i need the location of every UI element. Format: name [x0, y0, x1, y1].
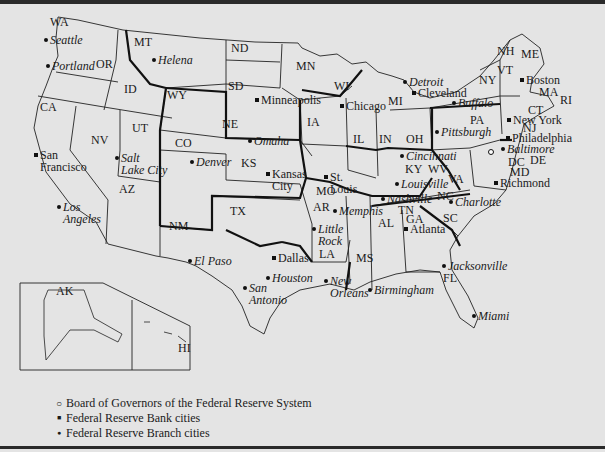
- city-label: Louisville: [400, 177, 449, 191]
- bank-city-marker: [324, 175, 328, 179]
- city-label: Omaha: [254, 134, 289, 148]
- state-label-ar: AR: [313, 200, 330, 214]
- city-label: Houston: [271, 271, 313, 285]
- state-label-il: IL: [353, 132, 364, 146]
- city-label: Chicago: [346, 99, 386, 113]
- bank-city-marker: [494, 181, 498, 185]
- branch-city-marker: [248, 139, 252, 143]
- state-label-nh: NH: [497, 44, 515, 58]
- city-label: Louis: [330, 182, 358, 196]
- state-label-or: OR: [96, 57, 113, 71]
- branch-city-marker: [395, 182, 399, 186]
- legend-label: Federal Reserve Branch cities: [66, 426, 210, 441]
- state-label-al: AL: [378, 216, 394, 230]
- board-of-governors-marker: [489, 150, 494, 155]
- state-label-fl: FL: [443, 271, 457, 285]
- state-label-ma: MA: [539, 85, 559, 99]
- legend-label: Federal Reserve Bank cities: [66, 411, 200, 426]
- state-label-tx: TX: [230, 204, 246, 218]
- state-label-ny: NY: [479, 73, 497, 87]
- city-label: Antonio: [248, 293, 287, 307]
- state-label-vt: VT: [497, 63, 514, 77]
- state-label-oh: OH: [406, 132, 424, 146]
- state-label-co: CO: [175, 136, 192, 150]
- branch-city-marker: [501, 147, 505, 151]
- city-label: Nashville: [386, 192, 433, 206]
- branch-city-marker: [312, 227, 316, 231]
- state-label-sd: SD: [228, 79, 244, 93]
- city-label: Memphis: [338, 204, 383, 218]
- city-label: Jacksonville: [448, 259, 508, 273]
- city-label: Helena: [157, 53, 193, 67]
- state-label-mi: MI: [388, 94, 403, 108]
- bank-city-marker: [404, 227, 408, 231]
- branch-city-marker: [46, 64, 50, 68]
- branch-city-marker: [472, 314, 476, 318]
- state-label-in: IN: [379, 132, 392, 146]
- state-label-wi: WI: [334, 79, 349, 93]
- branch-city-marker: [403, 80, 407, 84]
- state-label-me: ME: [521, 47, 539, 61]
- branch-city-marker: [333, 209, 337, 213]
- branch-city-marker: [381, 197, 385, 201]
- state-label-va: VA: [448, 172, 464, 186]
- state-label-ky: KY: [405, 162, 423, 176]
- legend-item-board: ○ Board of Governors of the Federal Rese…: [52, 396, 312, 411]
- state-label-la: LA: [319, 247, 335, 261]
- state-label-wv: WV: [428, 162, 448, 176]
- state-label-az: AZ: [119, 182, 135, 196]
- branch-city-marker: [324, 279, 328, 283]
- city-label: Denver: [195, 155, 232, 169]
- city-label: Portland: [51, 59, 96, 73]
- city-label: El Paso: [193, 254, 232, 268]
- federal-reserve-map: WAORIDMTNDSDMNWIMIWYNEIAILINOHCANVUTCOKS…: [0, 0, 605, 452]
- bank-city-marker: [340, 104, 344, 108]
- city-label: Atlanta: [410, 222, 446, 236]
- state-label-id: ID: [124, 82, 137, 96]
- state-label-nd: ND: [231, 41, 249, 55]
- state-label-nm: NM: [169, 219, 189, 233]
- state-label-ut: UT: [132, 121, 149, 135]
- bank-city-marker: [255, 98, 259, 102]
- bank-city-marker: [412, 91, 416, 95]
- city-label: Minneapolis: [261, 93, 321, 107]
- bank-city-marker: [520, 78, 524, 82]
- bank-city-marker: [507, 118, 511, 122]
- map-legend: ○ Board of Governors of the Federal Rese…: [52, 396, 312, 441]
- state-label-nv: NV: [91, 133, 109, 147]
- city-label: Buffalo: [458, 96, 493, 110]
- legend-item-branch: ● Federal Reserve Branch cities: [52, 426, 312, 441]
- branch-city-marker: [57, 205, 61, 209]
- state-label-mt: MT: [134, 35, 153, 49]
- city-label: City: [272, 179, 293, 193]
- bank-city-marker: [506, 136, 510, 140]
- city-label: Francisco: [40, 160, 87, 174]
- branch-city-marker: [449, 200, 453, 204]
- state-label-ks: KS: [241, 156, 256, 170]
- branch-city-marker: [188, 259, 192, 263]
- legend-label: Board of Governors of the Federal Reserv…: [66, 396, 312, 411]
- branch-city-marker: [190, 160, 194, 164]
- city-label: Cincinnati: [406, 149, 457, 163]
- legend-item-bank: ■ Federal Reserve Bank cities: [52, 411, 312, 426]
- city-label: Seattle: [50, 33, 83, 47]
- bank-city-marker: [272, 256, 276, 260]
- branch-city-marker: [368, 288, 372, 292]
- city-label: New York: [513, 113, 562, 127]
- state-label-wa: WA: [50, 15, 69, 29]
- city-label: Charlotte: [455, 195, 502, 209]
- dot-icon: ●: [52, 426, 66, 441]
- branch-city-marker: [44, 38, 48, 42]
- state-label-ca: CA: [40, 100, 57, 114]
- city-label: Boston: [526, 73, 560, 87]
- city-label: Lake City: [120, 163, 168, 177]
- city-label: Dallas: [278, 251, 309, 265]
- state-label-ne: NE: [222, 117, 238, 131]
- branch-city-marker: [442, 264, 446, 268]
- bottom-rule: [0, 446, 605, 449]
- branch-city-marker: [266, 276, 270, 280]
- branch-city-marker: [152, 58, 156, 62]
- branch-city-marker: [435, 130, 439, 134]
- city-label: Pittsburgh: [440, 125, 491, 139]
- city-label: Angeles: [62, 212, 101, 226]
